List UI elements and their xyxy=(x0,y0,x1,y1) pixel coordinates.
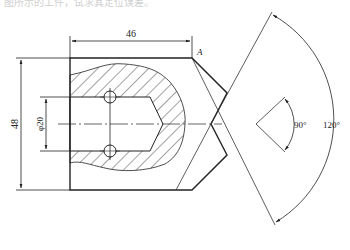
angle-120-label: 120° xyxy=(323,120,341,130)
technical-drawing: 46 A 48 φ20 90° 120° xyxy=(0,0,350,250)
dimension-46-label: 46 xyxy=(126,28,136,39)
datum-a-label: A xyxy=(196,47,203,57)
dimension-48-label: 48 xyxy=(9,119,20,129)
angle-120: 120° xyxy=(273,15,341,222)
dimension-46: 46 xyxy=(70,28,192,58)
angle-90-label: 90° xyxy=(294,120,307,130)
caption-text: 图所示的工件，试求其定位误差。 xyxy=(4,0,154,9)
section-hatch xyxy=(70,64,185,171)
dimension-phi20-label: φ20 xyxy=(35,116,45,131)
angle-90: 90° xyxy=(285,99,307,150)
drawing-canvas: 图所示的工件，试求其定位误差。 xyxy=(0,0,350,250)
